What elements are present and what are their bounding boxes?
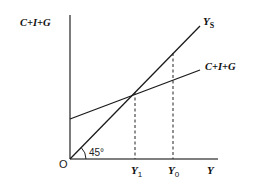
x-axis-label: Y — [207, 164, 215, 176]
y-axis-label: C+I+G — [20, 17, 51, 28]
y1-tick-label: Y1 — [131, 164, 143, 179]
keynesian-cross-diagram: C+I+G YS C+I+G O 45° Y1 Y0 Y — [0, 0, 255, 189]
y0-tick-label: Y0 — [168, 164, 180, 179]
angle-arc — [81, 148, 86, 159]
angle-label: 45° — [89, 147, 104, 158]
supply-line-label: YS — [203, 15, 215, 30]
expenditure-line-label: C+I+G — [205, 61, 236, 72]
origin-label: O — [59, 158, 68, 170]
